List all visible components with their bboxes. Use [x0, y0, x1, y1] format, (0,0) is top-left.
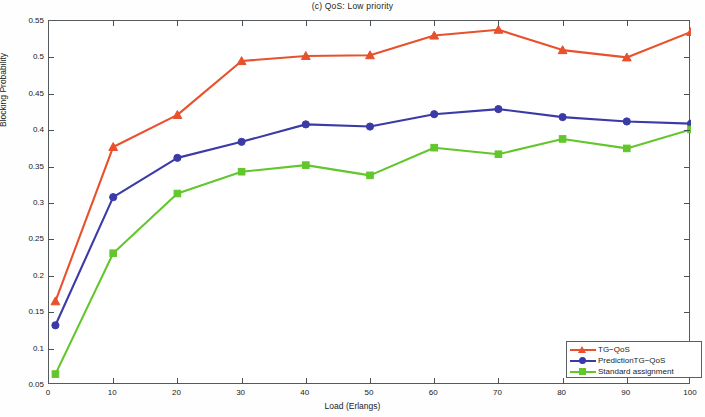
y-tick [48, 94, 54, 95]
y-tick-right [684, 94, 690, 95]
x-tick [242, 20, 243, 26]
legend-item-tg-qos: TG−QoS [570, 344, 698, 355]
x-tick-bottom [434, 378, 435, 384]
chart-title: (c) QoS: Low priority [0, 1, 705, 11]
y-tick-label: 0.3 [33, 198, 44, 207]
data-point [366, 123, 373, 130]
x-tick-bottom [113, 378, 114, 384]
x-tick-label: 40 [300, 388, 309, 397]
y-tick-label: 0.05 [28, 380, 44, 389]
data-point [559, 113, 566, 120]
legend-marker-circle-icon [579, 357, 586, 364]
data-point [51, 297, 60, 305]
data-point [174, 190, 181, 197]
x-tick-label: 30 [236, 388, 245, 397]
data-point [687, 28, 691, 36]
legend-label-predictiontg-qos: PredictionTG−QoS [596, 355, 665, 366]
data-point [302, 121, 309, 128]
y-tick [48, 167, 54, 168]
x-tick-label: 70 [493, 388, 502, 397]
x-tick-bottom [627, 378, 628, 384]
x-tick [177, 20, 178, 26]
figure-container: (c) QoS: Low priority Blocking Probabili… [0, 0, 705, 417]
y-tick [48, 312, 54, 313]
legend-swatch-tg-qos [570, 344, 596, 355]
y-tick-label: 0.25 [28, 234, 44, 243]
x-tick-bottom [498, 378, 499, 384]
y-axis-title: Blocking Probability [0, 30, 8, 150]
data-point [238, 168, 245, 175]
y-tick-label: 0.1 [33, 343, 44, 352]
y-tick [48, 203, 54, 204]
x-tick [498, 20, 499, 26]
x-tick [113, 20, 114, 26]
y-tick-label: 0.35 [28, 161, 44, 170]
legend-swatch-predictiontg-qos [570, 355, 596, 366]
x-tick-label: 60 [429, 388, 438, 397]
y-tick-label: 0.4 [33, 125, 44, 134]
y-tick-right [684, 276, 690, 277]
x-tick-label: 10 [108, 388, 117, 397]
x-tick-bottom [306, 378, 307, 384]
x-tick-label: 100 [683, 388, 696, 397]
y-tick [48, 239, 54, 240]
data-point [495, 105, 502, 112]
legend-marker-square-icon [579, 368, 586, 375]
data-point [559, 136, 566, 143]
x-tick-bottom [242, 378, 243, 384]
legend-label-tg-qos: TG−QoS [596, 344, 630, 355]
y-tick [48, 276, 54, 277]
data-point [52, 371, 59, 378]
x-tick-label: 90 [621, 388, 630, 397]
y-tick-right [684, 57, 690, 58]
data-point [623, 118, 630, 125]
data-point [495, 151, 502, 158]
legend-marker-triangle-icon [578, 346, 586, 353]
y-tick-label: 0.2 [33, 270, 44, 279]
x-tick-bottom [563, 378, 564, 384]
y-tick [48, 57, 54, 58]
y-tick-label: 0.5 [33, 52, 44, 61]
x-tick [306, 20, 307, 26]
data-point [174, 154, 181, 161]
x-tick [370, 20, 371, 26]
data-point [303, 162, 310, 169]
legend-swatch-standard-assignment [570, 366, 596, 377]
y-tick-label: 0.15 [28, 307, 44, 316]
x-tick-label: 50 [365, 388, 374, 397]
x-axis-title: Load (Erlangs) [0, 401, 705, 411]
y-tick [48, 130, 54, 131]
data-point [367, 172, 374, 179]
legend-item-predictiontg-qos: PredictionTG−QoS [570, 355, 698, 366]
x-tick-bottom [177, 378, 178, 384]
y-tick-right [684, 167, 690, 168]
data-point [431, 111, 438, 118]
x-tick [434, 20, 435, 26]
data-point [238, 138, 245, 145]
y-tick-label: 0.45 [28, 88, 44, 97]
data-point [110, 194, 117, 201]
x-tick-bottom [370, 378, 371, 384]
series-line-2 [55, 129, 691, 374]
x-tick [563, 20, 564, 26]
x-tick-label: 20 [172, 388, 181, 397]
y-tick-right [684, 312, 690, 313]
plot-area [48, 20, 690, 384]
x-tick-label: 80 [557, 388, 566, 397]
plot-svg [49, 21, 691, 385]
data-point [52, 322, 59, 329]
x-tick [627, 20, 628, 26]
y-tick-label: 0.55 [28, 16, 44, 25]
x-tick-label: 0 [46, 388, 50, 397]
y-tick [48, 349, 54, 350]
series-line-0 [55, 30, 691, 302]
data-point [624, 145, 631, 152]
y-tick-right [684, 239, 690, 240]
chart-legend: TG−QoS PredictionTG−QoS Standard assignm… [566, 341, 702, 378]
y-tick-right [684, 130, 690, 131]
legend-label-standard-assignment: Standard assignment [596, 366, 674, 377]
legend-item-standard-assignment: Standard assignment [570, 366, 698, 377]
data-point [431, 144, 438, 151]
data-point [110, 250, 117, 257]
y-tick-right [684, 203, 690, 204]
